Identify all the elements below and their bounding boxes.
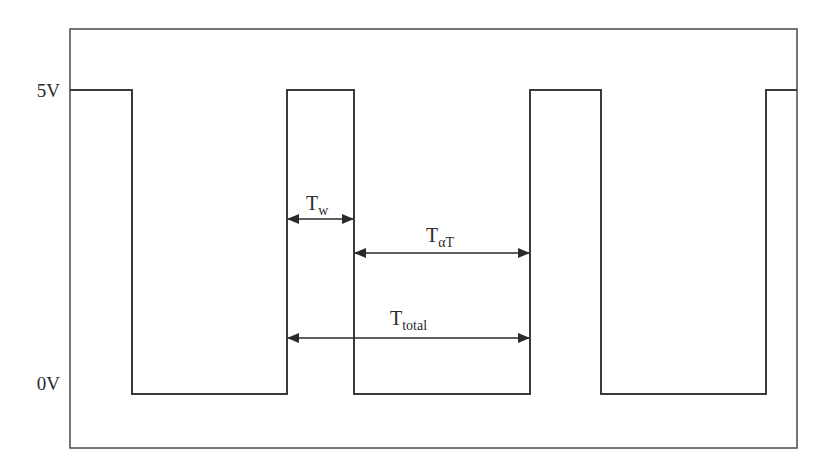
ttotal-label-base: T bbox=[390, 307, 402, 329]
tw-label-sub: w bbox=[318, 203, 329, 218]
ttotal-label-sub: total bbox=[402, 318, 427, 333]
tw-label: Tw bbox=[306, 192, 329, 218]
high-level-label: 5V bbox=[37, 80, 61, 101]
toff-label-sub: αT bbox=[438, 235, 454, 250]
toff-label: TαT bbox=[426, 224, 455, 250]
toff-label-base: T bbox=[426, 224, 438, 246]
ttotal-label: Ttotal bbox=[390, 307, 427, 333]
tw-label-base: T bbox=[306, 192, 318, 214]
low-level-label: 0V bbox=[37, 373, 61, 394]
pwm-waveform-diagram: 5V 0V Tw TαT Ttotal bbox=[0, 0, 827, 469]
